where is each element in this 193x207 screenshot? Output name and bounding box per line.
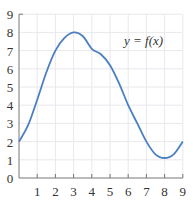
y-tick-label: 5 — [7, 80, 14, 95]
x-tick-label: 5 — [107, 184, 114, 199]
x-tick-label: 6 — [125, 184, 132, 199]
x-tick-label: 7 — [143, 184, 150, 199]
y-tick-label: 1 — [7, 153, 14, 168]
y-tick-label: 3 — [7, 116, 14, 131]
y-tick-label: 4 — [7, 98, 14, 113]
x-tick-label: 4 — [89, 184, 96, 199]
y-tick-label: 2 — [7, 135, 14, 150]
curve-annotation: y = f(x) — [122, 33, 163, 48]
y-tick-label: 8 — [7, 25, 14, 40]
x-tick-label: 8 — [161, 184, 168, 199]
x-tick-label: 1 — [34, 184, 41, 199]
line-chart: 1234567890123456789 y = f(x) — [0, 0, 193, 207]
x-tick-label: 3 — [70, 184, 77, 199]
series-line-f — [19, 32, 183, 158]
x-tick-label: 9 — [180, 184, 187, 199]
y-tick-label: 7 — [7, 44, 14, 59]
y-tick-label: 9 — [7, 7, 14, 22]
x-tick-label: 2 — [52, 184, 59, 199]
y-tick-label: 6 — [7, 62, 14, 77]
y-tick-label: 0 — [7, 171, 14, 186]
